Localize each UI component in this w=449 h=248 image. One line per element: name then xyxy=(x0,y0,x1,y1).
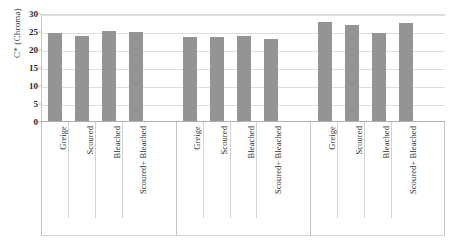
category-label: Greige xyxy=(192,126,202,150)
bar xyxy=(48,33,62,122)
y-axis-tick-label: 0 xyxy=(18,118,38,127)
bar xyxy=(345,25,359,122)
category-label: Scoured xyxy=(354,126,364,155)
bar xyxy=(399,23,413,122)
category-separator xyxy=(391,122,392,218)
category-label: Scoured+ Bleached xyxy=(273,126,283,194)
category-label: Scoured+ Bleached xyxy=(408,126,418,194)
plot-area xyxy=(41,14,445,122)
label-strip-right-rule xyxy=(444,122,445,235)
bar xyxy=(237,36,251,122)
bar xyxy=(102,31,116,122)
category-label: Greige xyxy=(327,126,337,150)
bar xyxy=(372,33,386,122)
y-axis-tick-label: 5 xyxy=(18,100,38,109)
category-label: Scoured+ Bleached xyxy=(138,126,148,194)
category-label: Bleached xyxy=(112,126,122,158)
bar-chart: C* (Chroma) 051015202530 GreigeScouredBl… xyxy=(0,0,449,248)
category-label: Bleached xyxy=(246,126,256,158)
category-separator xyxy=(337,122,338,218)
bar xyxy=(129,32,143,122)
category-separator xyxy=(95,122,96,218)
y-axis-tick-labels: 051015202530 xyxy=(18,14,38,122)
category-separator xyxy=(203,122,204,218)
bar xyxy=(264,39,278,122)
category-separator xyxy=(230,122,231,218)
y-axis-tick-label: 25 xyxy=(18,28,38,37)
group-separator xyxy=(176,122,177,235)
y-axis-tick-label: 20 xyxy=(18,46,38,55)
bar xyxy=(318,22,332,122)
category-separator xyxy=(122,122,123,218)
category-separator xyxy=(364,122,365,218)
bar xyxy=(183,37,197,122)
category-label: Scoured xyxy=(85,126,95,155)
category-label: Scoured xyxy=(219,126,229,155)
label-strip-bottom-rule xyxy=(41,235,445,236)
group-separator xyxy=(310,122,311,235)
category-separator xyxy=(68,122,69,218)
category-separator xyxy=(256,122,257,218)
gridline xyxy=(42,15,445,16)
bar xyxy=(210,37,224,122)
category-label: Bleached xyxy=(381,126,391,158)
y-axis-tick-label: 15 xyxy=(18,64,38,73)
group-separator xyxy=(41,122,42,235)
y-axis-tick-label: 30 xyxy=(18,10,38,19)
bar xyxy=(75,36,89,122)
category-label: Greige xyxy=(58,126,68,150)
y-axis-tick-label: 10 xyxy=(18,82,38,91)
category-label-strip: GreigeScouredBleachedScoured+ BleachedGr… xyxy=(41,122,445,242)
